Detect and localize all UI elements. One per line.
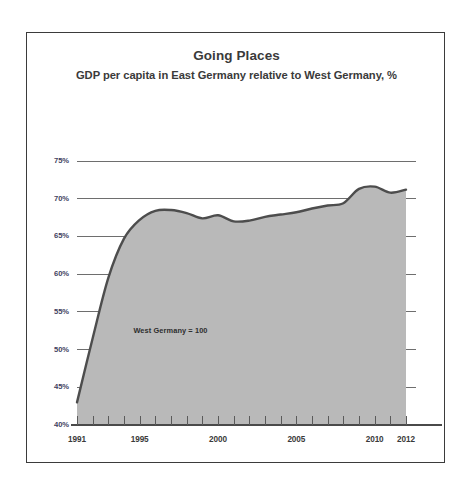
x-axis-tick-label: 2005	[276, 435, 316, 444]
y-axis-tick-label: 45%	[43, 382, 69, 391]
plot-area: 75%70%65%60%55%50%45%40% 199119952000200…	[27, 33, 446, 464]
chart-svg	[27, 33, 446, 464]
x-axis-tick-label: 2012	[386, 435, 426, 444]
y-axis-tick-label: 70%	[43, 194, 69, 203]
y-axis-tick-label: 40%	[43, 420, 69, 429]
chart-figure: Going Places GDP per capita in East Germ…	[0, 0, 472, 492]
y-axis-tick-label: 75%	[43, 156, 69, 165]
y-axis-tick-label: 55%	[43, 307, 69, 316]
x-axis-tick-label: 2000	[198, 435, 238, 444]
x-axis-tick-label: 1995	[120, 435, 160, 444]
x-axis-tick-label: 1991	[57, 435, 97, 444]
y-axis-tick-label: 65%	[43, 231, 69, 240]
chart-frame: Going Places GDP per capita in East Germ…	[26, 32, 445, 463]
y-axis-tick-label: 50%	[43, 345, 69, 354]
chart-annotation: West Germany = 100	[133, 326, 207, 335]
y-axis-tick-label: 60%	[43, 269, 69, 278]
